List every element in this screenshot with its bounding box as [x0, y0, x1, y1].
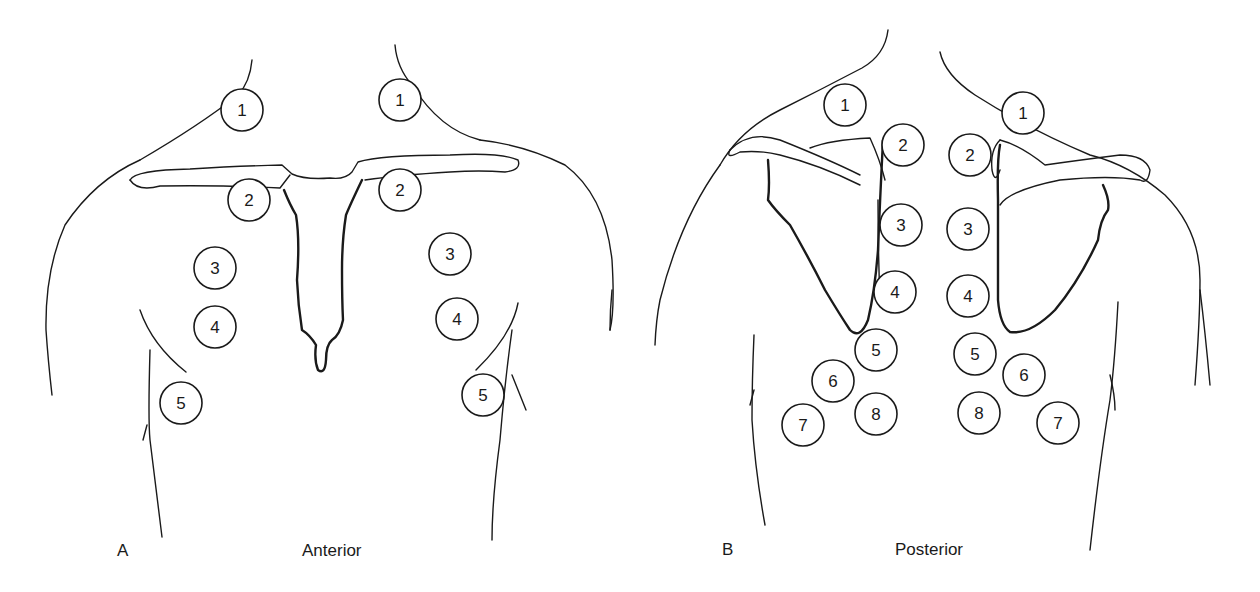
svg-text:4: 4 [452, 310, 461, 329]
point-marker: 1 [221, 89, 263, 131]
svg-text:6: 6 [1019, 366, 1028, 385]
svg-text:5: 5 [176, 394, 185, 413]
point-marker: 5 [160, 382, 202, 424]
svg-text:3: 3 [210, 259, 219, 278]
svg-text:2: 2 [244, 191, 253, 210]
point-marker: 8 [855, 393, 897, 435]
point-marker: 5 [462, 374, 504, 416]
point-marker: 7 [782, 404, 824, 446]
svg-text:8: 8 [974, 404, 983, 423]
svg-text:3: 3 [963, 220, 972, 239]
posterior-auscultation-points: 1 1 2 2 3 3 4 4 5 5 6 6 7 7 8 8 [782, 84, 1079, 446]
point-marker: 5 [954, 333, 996, 375]
svg-text:5: 5 [478, 386, 487, 405]
panel-letter-b: B [722, 540, 733, 560]
body-outlines: 1 1 2 2 3 3 4 4 5 5 1 1 2 2 3 3 4 4 5 5 … [0, 0, 1260, 592]
svg-text:1: 1 [1018, 104, 1027, 123]
point-marker: 6 [1003, 354, 1045, 396]
svg-text:2: 2 [898, 136, 907, 155]
svg-text:5: 5 [970, 345, 979, 364]
svg-text:1: 1 [395, 91, 404, 110]
auscultation-diagram: 1 1 2 2 3 3 4 4 5 5 1 1 2 2 3 3 4 4 5 5 … [0, 0, 1260, 592]
svg-text:4: 4 [963, 287, 972, 306]
point-marker: 2 [949, 134, 991, 176]
point-marker: 4 [947, 275, 989, 317]
svg-text:4: 4 [210, 318, 219, 337]
svg-text:8: 8 [871, 405, 880, 424]
point-marker: 8 [958, 392, 1000, 434]
svg-text:1: 1 [840, 96, 849, 115]
point-marker: 1 [1002, 92, 1044, 134]
point-marker: 4 [874, 271, 916, 313]
point-marker: 4 [194, 306, 236, 348]
panel-letter-a: A [117, 541, 128, 561]
point-marker: 3 [947, 208, 989, 250]
point-marker: 3 [880, 204, 922, 246]
point-marker: 4 [436, 298, 478, 340]
svg-text:3: 3 [445, 245, 454, 264]
svg-text:7: 7 [798, 416, 807, 435]
svg-text:2: 2 [395, 181, 404, 200]
point-marker: 7 [1037, 402, 1079, 444]
svg-text:2: 2 [965, 146, 974, 165]
point-marker: 5 [855, 329, 897, 371]
anterior-figure [46, 45, 613, 540]
panel-caption-posterior: Posterior [895, 540, 963, 560]
anterior-auscultation-points: 1 1 2 2 3 3 4 4 5 5 [160, 79, 504, 424]
point-marker: 2 [882, 124, 924, 166]
panel-caption-anterior: Anterior [302, 541, 362, 561]
point-marker: 1 [824, 84, 866, 126]
point-marker: 2 [228, 179, 270, 221]
point-marker: 6 [812, 360, 854, 402]
point-marker: 2 [379, 169, 421, 211]
svg-text:6: 6 [828, 372, 837, 391]
svg-text:5: 5 [871, 341, 880, 360]
posterior-figure [655, 30, 1210, 550]
point-marker: 1 [379, 79, 421, 121]
svg-text:3: 3 [896, 216, 905, 235]
point-marker: 3 [429, 233, 471, 275]
point-marker: 3 [194, 247, 236, 289]
svg-text:4: 4 [890, 283, 899, 302]
svg-text:7: 7 [1053, 414, 1062, 433]
svg-text:1: 1 [237, 101, 246, 120]
